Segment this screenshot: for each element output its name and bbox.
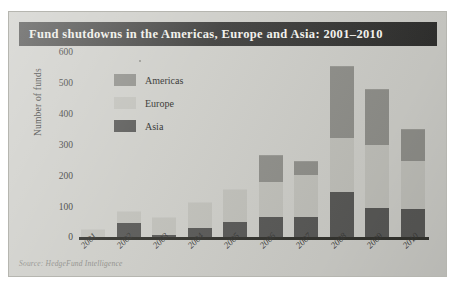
y-tick-300: 300 — [59, 140, 73, 150]
bar-segment-2008-europe[interactable] — [330, 138, 354, 192]
legend-swatch-asia — [114, 120, 136, 132]
bar-2009[interactable] — [365, 89, 389, 237]
bar-segment-2010-americas[interactable] — [401, 129, 425, 161]
screenshot-page: Fund shutdowns in the Americas, Europe a… — [0, 0, 457, 288]
x-tick-slot-2010: 2010 — [403, 240, 427, 274]
y-axis-ticks: 600 500 400 300 200 100 0 — [43, 52, 77, 238]
chart-title-bar: Fund shutdowns in the Americas, Europe a… — [19, 22, 437, 46]
x-tick-slot-2004: 2004 — [188, 240, 212, 274]
x-tick-slot-2005: 2005 — [224, 240, 248, 274]
y-tick-0: 0 — [68, 232, 73, 242]
legend-label-asia: Asia — [145, 121, 163, 132]
y-axis-label: Number of funds — [33, 68, 43, 136]
y-tick-400: 400 — [59, 109, 73, 119]
legend-swatch-americas — [114, 74, 136, 86]
chart-legend: AmericasEuropeAsia — [114, 74, 183, 143]
bar-segment-2007-americas[interactable] — [294, 161, 318, 175]
x-tick-slot-2007: 2007 — [296, 240, 320, 274]
bar-2010[interactable] — [401, 129, 425, 237]
source-note: Source: HedgeFund Intelligence — [19, 259, 123, 268]
bar-segment-2004-europe[interactable] — [188, 202, 212, 228]
y-tick-100: 100 — [59, 202, 73, 212]
bar-segment-2005-europe[interactable] — [223, 189, 247, 221]
legend-label-europe: Europe — [145, 98, 174, 109]
bar-segment-2007-europe[interactable] — [294, 175, 318, 217]
bar-segment-2006-europe[interactable] — [259, 182, 283, 217]
bar-2007[interactable] — [294, 161, 318, 237]
bar-segment-2006-americas[interactable] — [259, 155, 283, 181]
x-tick-slot-2002: 2002 — [117, 240, 141, 274]
x-axis-ticks: 2001200220032004200520062007200820092010 — [79, 240, 429, 274]
chart-card: Fund shutdowns in the Americas, Europe a… — [9, 12, 446, 276]
legend-swatch-europe — [114, 97, 136, 109]
x-tick-slot-2006: 2006 — [260, 240, 284, 274]
legend-item-europe[interactable]: Europe — [114, 97, 183, 109]
legend-item-asia[interactable]: Asia — [114, 120, 183, 132]
x-tick-slot-2003: 2003 — [153, 240, 177, 274]
x-tick-slot-2008: 2008 — [331, 240, 355, 274]
bar-segment-2009-europe[interactable] — [365, 145, 389, 208]
legend-item-americas[interactable]: Americas — [114, 74, 183, 86]
y-tick-600: 600 — [59, 47, 73, 57]
x-tick-slot-2001: 2001 — [81, 240, 105, 274]
bar-segment-2008-americas[interactable] — [330, 66, 354, 138]
y-tick-500: 500 — [59, 78, 73, 88]
bar-2005[interactable] — [223, 189, 247, 237]
bar-2008[interactable] — [330, 66, 354, 237]
plot-area: Number of funds 600 500 400 300 200 100 … — [19, 52, 437, 266]
bar-segment-2002-europe[interactable] — [117, 211, 141, 223]
bar-2006[interactable] — [259, 155, 283, 237]
x-tick-slot-2009: 2009 — [367, 240, 391, 274]
legend-label-americas: Americas — [145, 75, 183, 86]
page-title: Fund shutdowns in the Americas, Europe a… — [19, 27, 383, 42]
y-tick-200: 200 — [59, 171, 73, 181]
bar-segment-2009-americas[interactable] — [365, 89, 389, 145]
bar-segment-2010-europe[interactable] — [401, 161, 425, 209]
